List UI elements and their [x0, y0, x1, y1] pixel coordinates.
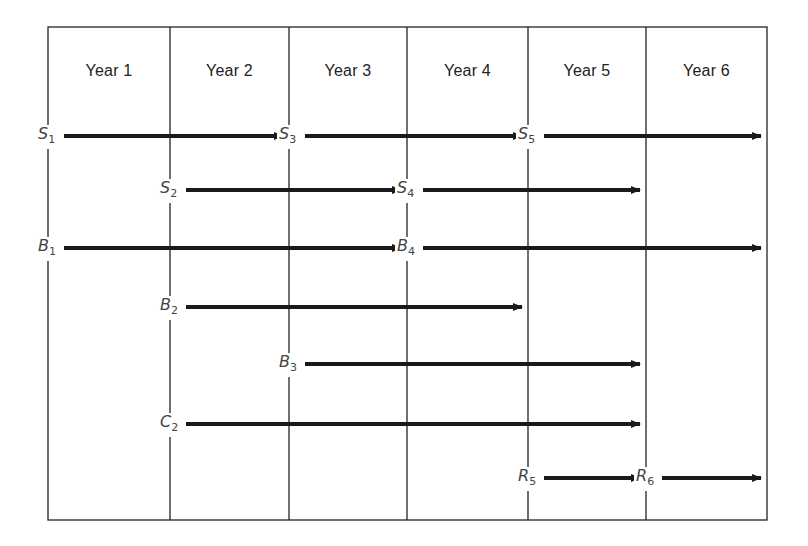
label-c2: C2 — [158, 413, 180, 437]
label-b1: B1 — [36, 237, 58, 261]
year-header: Year 2 — [170, 62, 289, 80]
label-s5: S5 — [516, 125, 537, 149]
timeline-diagram: Year 1Year 2Year 3Year 4Year 5Year 6 S1S… — [0, 0, 808, 546]
year-header: Year 6 — [646, 62, 767, 80]
label-s1: S1 — [36, 125, 57, 149]
label-s4: S4 — [395, 179, 416, 203]
label-r6: R6 — [634, 467, 656, 491]
label-b4: B4 — [395, 237, 417, 261]
label-s3: S3 — [277, 125, 298, 149]
label-b3: B3 — [277, 353, 299, 377]
year-header: Year 1 — [48, 62, 170, 80]
year-header: Year 4 — [407, 62, 528, 80]
grid — [0, 0, 808, 546]
label-b2: B2 — [158, 296, 180, 320]
year-header: Year 3 — [289, 62, 407, 80]
label-s2: S2 — [158, 179, 179, 203]
label-r5: R5 — [516, 467, 538, 491]
year-header: Year 5 — [528, 62, 646, 80]
